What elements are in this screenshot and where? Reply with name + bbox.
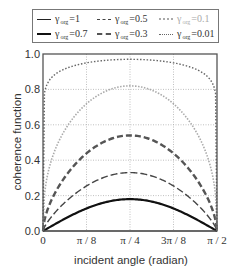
- y-axis-ticks: 0.00.20.40.60.81.0: [25, 48, 40, 237]
- y-tick-label: 0.6: [25, 119, 40, 131]
- legend-label: γorg=0.01: [177, 28, 214, 40]
- x-axis-label: incident angle (radian): [74, 254, 188, 266]
- legend-item: γorg=0.1: [159, 12, 209, 26]
- legend-label: γorg=0.3: [115, 28, 147, 40]
- legend-item: γorg=1: [37, 12, 80, 26]
- y-axis-label: coherence function: [11, 93, 23, 190]
- y-tick-label: 0.8: [25, 83, 40, 95]
- legend-line-sample-icon: [37, 33, 51, 35]
- legend-label: γorg=0.7: [55, 28, 87, 40]
- x-tick-label: π / 8: [77, 234, 97, 246]
- legend-item: γorg=0.5: [97, 12, 147, 26]
- y-tick-label: 0.4: [25, 154, 40, 166]
- x-tick-label: π / 4: [120, 234, 140, 246]
- legend-label: γorg=0.5: [115, 13, 147, 25]
- y-tick-label: 1.0: [25, 48, 40, 60]
- legend-label: γorg=1: [55, 13, 80, 25]
- y-tick-label: 0.2: [25, 190, 40, 202]
- curve-series-1: [43, 199, 217, 231]
- y-tick-label: 0.0: [25, 225, 40, 237]
- legend-line-sample-icon: [97, 33, 111, 35]
- data-curves: [43, 59, 217, 231]
- legend-item: γorg=0.3: [97, 27, 147, 41]
- legend-item: γorg=0.01: [159, 27, 214, 41]
- legend-item: γorg=0.7: [37, 27, 87, 41]
- x-tick-label: 0: [40, 234, 46, 246]
- x-tick-label: 3π / 8: [161, 234, 187, 246]
- legend-line-sample-icon: [159, 34, 173, 35]
- legend-line-sample-icon: [97, 19, 111, 20]
- legend-line-sample-icon: [37, 19, 51, 20]
- grid-lines: [43, 54, 217, 231]
- x-axis-ticks: 0π / 8π / 43π / 8π / 2: [40, 234, 227, 246]
- legend-line-sample-icon: [159, 18, 173, 20]
- legend-label: γorg=0.1: [177, 13, 209, 25]
- x-tick-label: π / 2: [207, 234, 227, 246]
- legend: γorg=1γorg=0.7γorg=0.5γorg=0.3γorg=0.1γo…: [32, 9, 219, 43]
